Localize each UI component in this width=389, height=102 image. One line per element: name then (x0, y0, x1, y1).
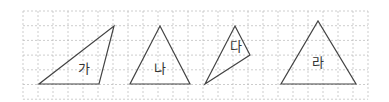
triangle-ga-label: 가 (78, 61, 90, 76)
triangle-ga-shape (39, 26, 114, 84)
triangle-ga: 가 (39, 26, 114, 84)
triangle-ra: 라 (281, 21, 356, 84)
triangle-da-label: 다 (230, 39, 242, 54)
triangle-ra-shape (281, 21, 356, 84)
triangle-ra-label: 라 (312, 55, 324, 70)
triangle-grid-figure: 가 나 다 라 (0, 0, 389, 102)
triangle-na-label: 나 (154, 61, 166, 76)
triangles-group: 가 나 다 라 (39, 21, 356, 84)
